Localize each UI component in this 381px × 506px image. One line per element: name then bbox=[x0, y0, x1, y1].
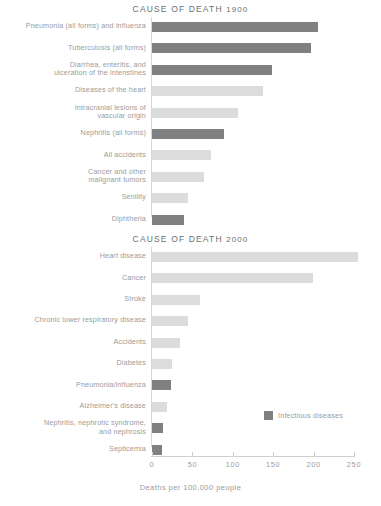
bar bbox=[152, 359, 172, 369]
category-label-line: Septicemia bbox=[0, 445, 146, 454]
category-label: Tuberculosis (all forms) bbox=[0, 44, 146, 53]
bar bbox=[152, 295, 200, 305]
chart-panel-1900: CAUSE OF DEATH 1900 Pneumonia (all forms… bbox=[0, 0, 381, 228]
bar bbox=[152, 150, 211, 160]
legend: Infectious diseases bbox=[264, 411, 343, 420]
chart-title-1900-year: 1900 bbox=[226, 5, 248, 14]
category-label-line: Pneumonia (all forms) and influenza bbox=[0, 22, 146, 31]
bar bbox=[152, 108, 238, 118]
category-label-line: Heart disease bbox=[0, 252, 146, 261]
x-axis-tick-label: 200 bbox=[306, 460, 320, 469]
category-label: Diseases of the heart bbox=[0, 86, 146, 95]
x-axis-tick-label: 100 bbox=[226, 460, 240, 469]
category-label-line: Diphtheria bbox=[0, 215, 146, 224]
category-label-line: Tuberculosis (all forms) bbox=[0, 44, 146, 53]
bar bbox=[152, 86, 263, 96]
category-label-line: Nephritis (all forms) bbox=[0, 129, 146, 138]
category-label: Senility bbox=[0, 193, 146, 202]
bar bbox=[152, 445, 162, 455]
category-label-line: Diseases of the heart bbox=[0, 86, 146, 95]
category-label-line: Cancer bbox=[0, 274, 146, 283]
x-axis-tick bbox=[273, 452, 274, 456]
category-label-line: Alzheimer's disease bbox=[0, 402, 146, 411]
category-label: Heart disease bbox=[0, 252, 146, 261]
legend-swatch-infectious-icon bbox=[264, 411, 273, 420]
chart-title-2000-text: CAUSE OF DEATH bbox=[133, 234, 223, 244]
x-axis-tick bbox=[192, 452, 193, 456]
chart-title-2000-year: 2000 bbox=[226, 235, 248, 244]
bar bbox=[152, 43, 311, 53]
category-label-line: Diabetes bbox=[0, 359, 146, 368]
category-label: Septicemia bbox=[0, 445, 146, 454]
category-label-line: malignant tumors bbox=[0, 176, 146, 185]
x-axis-tick bbox=[233, 452, 234, 456]
bar bbox=[152, 380, 171, 390]
plot-area-1900 bbox=[151, 17, 355, 217]
category-label: Cancer bbox=[0, 274, 146, 283]
category-label: Pneumonia/influenza bbox=[0, 381, 146, 390]
x-axis-tick bbox=[354, 452, 355, 456]
x-axis-tick-label: 0 bbox=[150, 460, 155, 469]
category-label: Diarrhea, enteritis, andulceration of th… bbox=[0, 61, 146, 78]
category-label-line: and nephrosis bbox=[0, 428, 146, 437]
category-label-line: Pneumonia/influenza bbox=[0, 381, 146, 390]
bar bbox=[152, 172, 204, 182]
bar bbox=[152, 129, 224, 139]
category-label: Stroke bbox=[0, 295, 146, 304]
category-label-line: Chronic lower respiratory disease bbox=[0, 316, 146, 325]
bar bbox=[152, 193, 188, 203]
category-label: Accidents bbox=[0, 338, 146, 347]
category-label: Intracranial lesions ofvascular origin bbox=[0, 104, 146, 121]
x-axis: 050100150200250 bbox=[151, 456, 355, 457]
chart-page: CAUSE OF DEATH 1900 Pneumonia (all forms… bbox=[0, 0, 381, 506]
bar bbox=[152, 215, 184, 225]
category-label-line: Accidents bbox=[0, 338, 146, 347]
bar bbox=[152, 402, 167, 412]
category-label: Chronic lower respiratory disease bbox=[0, 316, 146, 325]
bar bbox=[152, 338, 180, 348]
bar bbox=[152, 252, 358, 262]
bar bbox=[152, 273, 313, 283]
bar bbox=[152, 316, 188, 326]
legend-label-infectious: Infectious diseases bbox=[278, 411, 343, 420]
x-axis-title: Deaths per 100,000 people bbox=[0, 483, 381, 492]
category-label-line: All accidents bbox=[0, 151, 146, 160]
chart-title-2000: CAUSE OF DEATH 2000 bbox=[0, 234, 381, 244]
category-label-line: vascular origin bbox=[0, 112, 146, 121]
category-label-line: ulceration of the intenstines bbox=[0, 69, 146, 78]
category-label: Diabetes bbox=[0, 359, 146, 368]
chart-title-1900-text: CAUSE OF DEATH bbox=[133, 4, 223, 14]
x-axis-tick-label: 150 bbox=[266, 460, 280, 469]
bar bbox=[152, 22, 318, 32]
bar bbox=[152, 65, 272, 75]
category-label: Pneumonia (all forms) and influenza bbox=[0, 22, 146, 31]
x-axis-tick-label: 250 bbox=[347, 460, 361, 469]
chart-title-1900: CAUSE OF DEATH 1900 bbox=[0, 4, 381, 14]
bar-group-1900 bbox=[151, 17, 355, 217]
category-label: All accidents bbox=[0, 151, 146, 160]
category-label: Cancer and othermalignant tumors bbox=[0, 168, 146, 185]
category-label-line: Senility bbox=[0, 193, 146, 202]
category-label: Nephritis (all forms) bbox=[0, 129, 146, 138]
category-label: Diphtheria bbox=[0, 215, 146, 224]
x-axis-tick bbox=[314, 452, 315, 456]
category-label: Nephritis, nephrotic syndrome,and nephro… bbox=[0, 419, 146, 436]
category-label: Alzheimer's disease bbox=[0, 402, 146, 411]
bar bbox=[152, 423, 163, 433]
category-label-line: Stroke bbox=[0, 295, 146, 304]
x-axis-tick bbox=[152, 452, 153, 456]
x-axis-tick-label: 50 bbox=[188, 460, 198, 469]
